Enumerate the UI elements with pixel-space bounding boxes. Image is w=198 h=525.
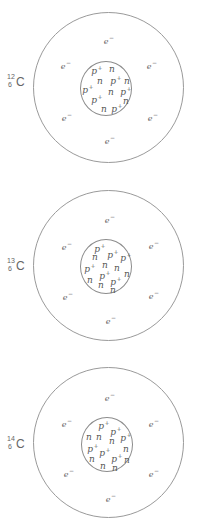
- neutron: n: [123, 445, 129, 454]
- neutron: n: [123, 97, 129, 106]
- neutron: n: [109, 437, 115, 446]
- neutron: n: [124, 270, 130, 279]
- electron: e−: [106, 315, 116, 326]
- electron: e−: [62, 112, 72, 123]
- element-symbol: C: [16, 76, 25, 88]
- isotope-label-carbon-13: 13 6 C: [3, 257, 33, 277]
- neutron: n: [98, 281, 104, 290]
- proton: p+: [111, 103, 122, 114]
- electron: e−: [62, 241, 72, 252]
- electron: e−: [62, 418, 72, 429]
- neutron: n: [100, 462, 106, 471]
- electron: e−: [149, 468, 159, 479]
- proton: p+: [99, 447, 110, 458]
- mass-number: 13: [7, 257, 15, 264]
- mass-number: 14: [7, 435, 15, 442]
- element-symbol: C: [16, 260, 25, 272]
- mass-number: 12: [7, 73, 15, 80]
- neutron: n: [108, 88, 114, 97]
- neutron: n: [110, 286, 116, 295]
- neutron: n: [101, 105, 107, 114]
- atomic-number: 6: [8, 443, 12, 450]
- proton: p+: [87, 443, 98, 454]
- electron: e−: [149, 290, 159, 301]
- atom-carbon-14: 14 6 C e− e− e− e− e− e− p+ p+ n n n p+ …: [0, 352, 198, 525]
- neutron: n: [114, 264, 120, 273]
- isotope-label-carbon-12: 12 6 C: [3, 73, 33, 93]
- electron: e−: [106, 493, 116, 504]
- neutron: n: [96, 433, 102, 442]
- neutron: n: [109, 65, 115, 74]
- element-symbol: C: [16, 438, 25, 450]
- neutron: n: [87, 276, 93, 285]
- neutron: n: [89, 455, 95, 464]
- neutron: n: [92, 253, 98, 262]
- electron: e−: [63, 291, 73, 302]
- electron: e−: [104, 35, 114, 46]
- neutron: n: [112, 464, 118, 473]
- isotope-label-carbon-14: 14 6 C: [3, 435, 33, 455]
- electron: e−: [105, 392, 115, 403]
- neutron: n: [97, 77, 103, 86]
- electron: e−: [61, 60, 71, 71]
- electron: e−: [149, 418, 159, 429]
- atomic-number: 6: [8, 265, 12, 272]
- neutron: n: [86, 433, 92, 442]
- atomic-number: 6: [8, 81, 12, 88]
- proton: p+: [98, 420, 109, 431]
- proton: p+: [107, 249, 118, 260]
- electron: e−: [105, 214, 115, 225]
- neutron: n: [124, 456, 130, 465]
- proton: p+: [91, 65, 102, 76]
- proton: p+: [120, 432, 131, 443]
- atom-carbon-12: 12 6 C e− e− e− e− e− e− p+ n n p+ n p+ …: [0, 0, 198, 175]
- electron: e−: [148, 112, 158, 123]
- proton: p+: [84, 263, 95, 274]
- proton: p+: [120, 252, 131, 263]
- proton: p+: [110, 75, 121, 86]
- atom-carbon-13: 13 6 C e− e− e− e− e− e− p+ n p+ p+ p+ n…: [0, 177, 198, 352]
- electron: e−: [147, 60, 157, 71]
- electron: e−: [64, 468, 74, 479]
- electron: e−: [105, 135, 115, 146]
- electron: e−: [149, 240, 159, 251]
